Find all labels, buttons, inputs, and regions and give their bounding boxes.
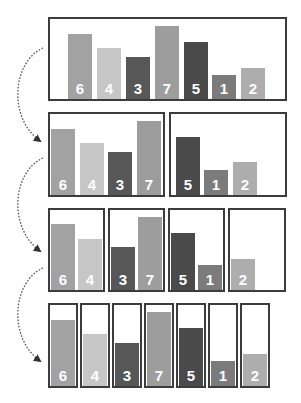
bar-label: 4 bbox=[78, 272, 102, 287]
level-2-group-3: 2 bbox=[228, 208, 286, 292]
bar-value-7: 7 bbox=[147, 312, 171, 386]
bar-label: 3 bbox=[126, 81, 150, 96]
bar-value-4: 4 bbox=[97, 48, 121, 99]
bar-value-5: 5 bbox=[176, 137, 200, 195]
level-3-group-6: 2 bbox=[240, 303, 270, 388]
bar-label: 7 bbox=[137, 177, 161, 192]
bar-value-7: 7 bbox=[137, 121, 161, 195]
level-3-group-0: 6 bbox=[48, 303, 78, 388]
bar-label: 2 bbox=[243, 368, 267, 383]
bar-label: 3 bbox=[111, 272, 135, 287]
bar-value-5: 5 bbox=[179, 328, 203, 386]
level-2-group-2: 5 1 bbox=[168, 208, 225, 292]
bar-value-3: 3 bbox=[111, 247, 135, 290]
bar-value-6: 6 bbox=[51, 129, 75, 195]
bar-label: 7 bbox=[147, 368, 171, 383]
bar-label: 1 bbox=[198, 272, 222, 287]
level-1-group-0: 6 4 3 7 bbox=[48, 112, 165, 197]
level-3-group-3: 7 bbox=[144, 303, 174, 388]
bar-label: 2 bbox=[231, 272, 255, 287]
bar-value-4: 4 bbox=[80, 143, 104, 195]
bar-label: 1 bbox=[204, 177, 228, 192]
level-2-group-1: 3 7 bbox=[108, 208, 165, 292]
bar-label: 2 bbox=[233, 177, 257, 192]
bar-value-4: 4 bbox=[83, 334, 107, 386]
arrow-level-0-to-1 bbox=[18, 48, 43, 141]
level-3-group-5: 1 bbox=[208, 303, 238, 388]
bar-value-1: 1 bbox=[212, 75, 236, 99]
bar-label: 6 bbox=[51, 177, 75, 192]
bar-label: 1 bbox=[211, 368, 235, 383]
bar-label: 1 bbox=[212, 81, 236, 96]
bar-label: 5 bbox=[176, 177, 200, 192]
bar-value-3: 3 bbox=[115, 343, 139, 386]
arrow-level-2-to-3 bbox=[18, 268, 43, 361]
bar-label: 4 bbox=[80, 177, 104, 192]
bar-label: 4 bbox=[83, 368, 107, 383]
bar-label: 6 bbox=[68, 81, 92, 96]
bar-value-5: 5 bbox=[184, 42, 208, 99]
level-2-group-0: 6 4 bbox=[48, 208, 105, 292]
bar-value-6: 6 bbox=[51, 320, 75, 386]
bar-label: 6 bbox=[51, 368, 75, 383]
bar-value-2: 2 bbox=[241, 68, 265, 99]
bar-label: 5 bbox=[179, 368, 203, 383]
level-3-group-1: 4 bbox=[80, 303, 110, 388]
bar-value-3: 3 bbox=[108, 152, 132, 195]
bar-value-1: 1 bbox=[211, 361, 235, 386]
bar-label: 5 bbox=[171, 272, 195, 287]
bar-value-2: 2 bbox=[231, 259, 255, 290]
level-3-group-2: 3 bbox=[112, 303, 142, 388]
bar-value-7: 7 bbox=[155, 26, 179, 99]
bar-label: 7 bbox=[138, 272, 162, 287]
bar-value-2: 2 bbox=[243, 354, 267, 386]
bar-label: 4 bbox=[97, 81, 121, 96]
bar-label: 7 bbox=[155, 81, 179, 96]
bar-value-6: 6 bbox=[68, 34, 92, 99]
bar-value-6: 6 bbox=[51, 224, 75, 290]
level-1-group-1: 5 1 2 bbox=[169, 112, 287, 197]
bar-label: 2 bbox=[241, 81, 265, 96]
bar-label: 6 bbox=[51, 272, 75, 287]
arrow-level-1-to-2 bbox=[18, 158, 43, 251]
bar-value-1: 1 bbox=[198, 265, 222, 290]
bar-value-4: 4 bbox=[78, 239, 102, 290]
bar-label: 5 bbox=[184, 81, 208, 96]
bar-value-7: 7 bbox=[138, 217, 162, 290]
level-0-group-0: 6 4 3 7 5 1 2 bbox=[48, 17, 287, 101]
bar-label: 3 bbox=[115, 368, 139, 383]
bar-label: 3 bbox=[108, 177, 132, 192]
bar-value-5: 5 bbox=[171, 233, 195, 290]
bar-value-1: 1 bbox=[204, 170, 228, 195]
bar-value-3: 3 bbox=[126, 57, 150, 99]
bar-value-2: 2 bbox=[233, 162, 257, 195]
level-3-group-4: 5 bbox=[176, 303, 206, 388]
